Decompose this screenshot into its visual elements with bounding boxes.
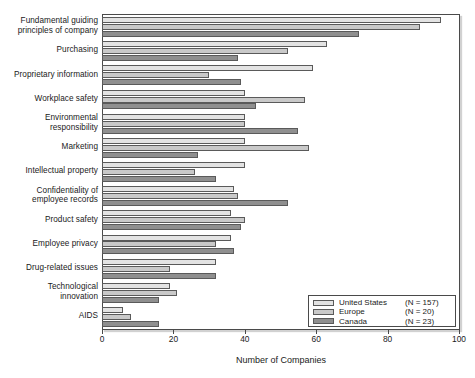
- value-axis: 020406080100: [102, 330, 460, 350]
- bar-ca: [102, 297, 159, 303]
- category-label: Environmentalresponsibility: [0, 113, 98, 132]
- bar-eu: [102, 121, 245, 127]
- legend-swatch: [313, 309, 334, 315]
- chart-legend: United States(N = 157)Europe(N = 20)Cana…: [308, 295, 456, 327]
- bar-eu: [102, 217, 245, 223]
- bar-eu: [102, 169, 195, 175]
- bar-us: [102, 41, 327, 47]
- bar-eu: [102, 145, 309, 151]
- legend-item: Canada(N = 23): [313, 317, 451, 326]
- bar-ca: [102, 128, 298, 134]
- bar-eu: [102, 266, 170, 272]
- bar-ca: [102, 176, 216, 182]
- legend-sample-size: (N = 157): [405, 298, 439, 307]
- category-label: Marketing: [0, 142, 98, 152]
- bar-ca: [102, 55, 238, 61]
- category-axis-labels: Fundamental guidingprinciples of company…: [0, 15, 98, 329]
- category-label: Purchasing: [0, 45, 98, 55]
- legend-label: Europe: [339, 307, 405, 316]
- bar-eu: [102, 314, 131, 320]
- bar-eu: [102, 241, 216, 247]
- bar-us: [102, 162, 245, 168]
- legend-label: Canada: [339, 317, 405, 326]
- bar-ca: [102, 31, 359, 37]
- legend-swatch: [313, 318, 334, 324]
- category-label: Employee privacy: [0, 239, 98, 249]
- bar-eu: [102, 72, 209, 78]
- bar-ca: [102, 321, 159, 327]
- bar-chart: Fundamental guidingprinciples of company…: [0, 0, 475, 378]
- category-label: Product safety: [0, 215, 98, 225]
- axis-tick-label: 40: [240, 334, 249, 344]
- category-label: Technologicalinnovation: [0, 282, 98, 301]
- category-label: Drug-related issues: [0, 263, 98, 273]
- axis-tick-label: 60: [312, 334, 321, 344]
- bar-ca: [102, 152, 198, 158]
- axis-tick-label: 80: [383, 334, 392, 344]
- axis-tick-label: 100: [452, 334, 466, 344]
- bar-eu: [102, 97, 305, 103]
- category-label: Workplace safety: [0, 94, 98, 104]
- category-label: Confidentiality ofemployee records: [0, 186, 98, 205]
- legend-sample-size: (N = 20): [405, 307, 434, 316]
- bar-ca: [102, 248, 234, 254]
- bar-us: [102, 235, 231, 241]
- bar-ca: [102, 79, 241, 85]
- bar-us: [102, 259, 216, 265]
- category-label: Proprietary information: [0, 70, 98, 80]
- bar-eu: [102, 290, 177, 296]
- bar-us: [102, 210, 231, 216]
- legend-label: United States: [339, 298, 405, 307]
- bar-us: [102, 138, 245, 144]
- bar-ca: [102, 200, 288, 206]
- legend-item: United States(N = 157): [313, 298, 451, 307]
- category-label: AIDS: [0, 311, 98, 321]
- bar-us: [102, 283, 170, 289]
- legend-sample-size: (N = 23): [405, 317, 434, 326]
- category-label: Fundamental guidingprinciples of company: [0, 16, 98, 35]
- bar-ca: [102, 273, 216, 279]
- bar-eu: [102, 48, 288, 54]
- bar-us: [102, 114, 245, 120]
- bar-ca: [102, 103, 256, 109]
- bar-eu: [102, 193, 238, 199]
- bar-eu: [102, 24, 420, 30]
- legend-swatch: [313, 300, 334, 306]
- axis-tick-label: 20: [169, 334, 178, 344]
- bar-us: [102, 307, 123, 313]
- legend-item: Europe(N = 20): [313, 307, 451, 316]
- category-label: Intellectual property: [0, 166, 98, 176]
- bar-ca: [102, 224, 241, 230]
- bar-us: [102, 90, 245, 96]
- bar-us: [102, 65, 313, 71]
- bar-groups: [102, 15, 459, 329]
- x-axis-title: Number of Companies: [102, 355, 460, 365]
- bar-us: [102, 186, 234, 192]
- axis-tick-label: 0: [100, 334, 105, 344]
- bar-us: [102, 17, 441, 23]
